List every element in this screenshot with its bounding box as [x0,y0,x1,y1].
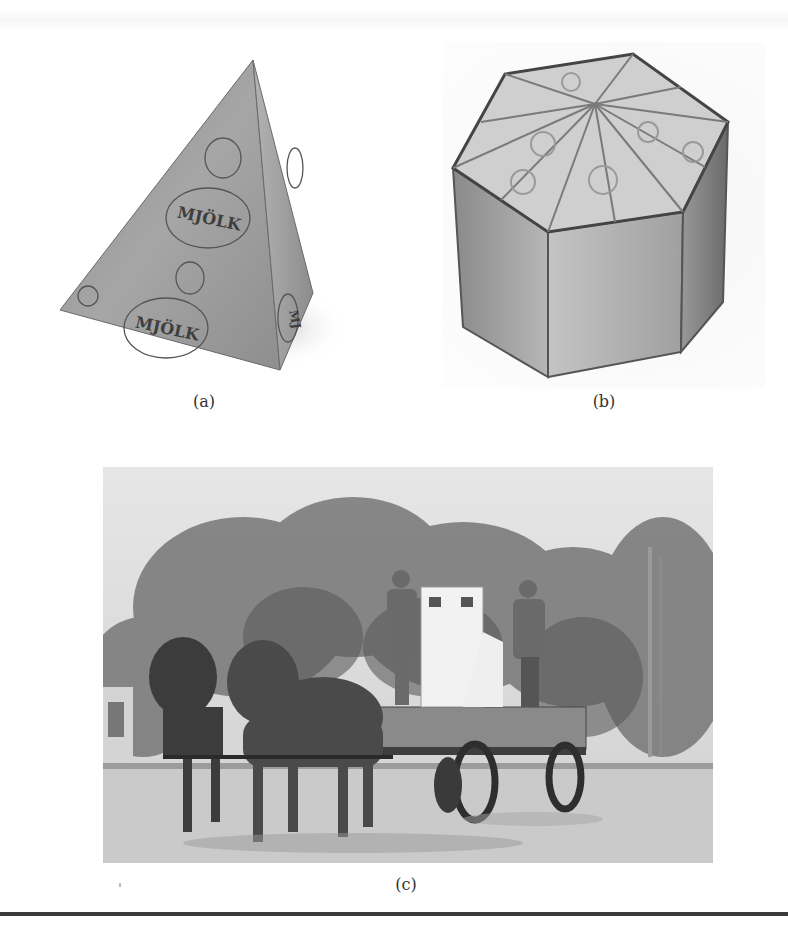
figure-bottom-rule [0,912,788,916]
figure-panel-b [443,42,765,388]
figure-panel-a: MJÖLK MJÖLK MJ [48,58,348,378]
bleed-through-text [0,8,788,32]
caption-b: (b) [574,392,634,411]
hexagonal-crate-image [443,42,765,388]
tetra-pak-image: MJÖLK MJÖLK MJ [48,58,348,378]
horse-wagon-photo [103,467,713,863]
caption-a: (a) [174,392,234,411]
figure-panel-c [103,467,713,863]
caption-c: (c) [376,875,436,894]
stray-mark [119,883,121,887]
